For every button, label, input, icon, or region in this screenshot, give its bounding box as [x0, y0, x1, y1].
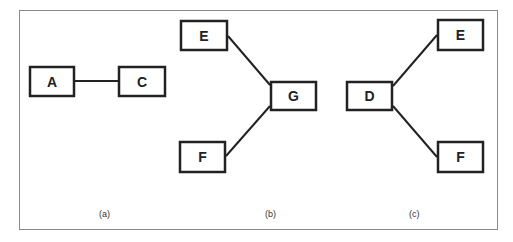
edge-e-g	[228, 36, 270, 85]
edge-d-e	[393, 35, 437, 86]
diagram-a: AC	[30, 67, 165, 96]
edge-d-f	[393, 106, 437, 157]
node-label: E	[199, 28, 208, 44]
node-f: F	[438, 142, 483, 172]
caption-b: (b)	[265, 209, 276, 219]
caption-a: (a)	[99, 209, 110, 219]
node-label: D	[364, 88, 374, 104]
node-e: E	[438, 20, 483, 50]
node-label: F	[456, 149, 465, 165]
edge-f-g	[226, 106, 270, 156]
node-label: C	[137, 74, 147, 90]
diagram-b: EGF	[180, 21, 316, 172]
node-a: A	[30, 67, 74, 96]
node-label: A	[47, 74, 57, 90]
node-d: D	[347, 82, 392, 110]
caption-c: (c)	[409, 209, 420, 219]
diagram-canvas: ACEGFDEF(a)(b)(c)	[0, 0, 513, 242]
node-label: G	[288, 88, 299, 104]
diagram-c: DEF	[347, 20, 483, 172]
node-label: E	[456, 27, 465, 43]
node-e: E	[181, 21, 227, 50]
node-f: F	[180, 142, 225, 172]
node-label: F	[198, 149, 207, 165]
node-g: G	[271, 82, 316, 110]
node-c: C	[119, 67, 165, 96]
